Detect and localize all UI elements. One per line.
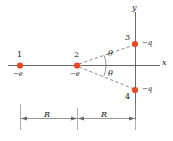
dimension-label-R-1: R [44, 111, 50, 119]
figure-canvas [0, 0, 173, 141]
angle-label-upper: θ [108, 50, 113, 58]
charge-dot-3 [132, 41, 138, 47]
charge-4-number: 4 [125, 93, 130, 101]
charge-configuration-figure: 1 −e 2 −e 3 −q 4 −q θ θ y x R R [0, 0, 173, 141]
dimension-label-R-2: R [101, 111, 107, 119]
charge-1-value: −e [13, 71, 23, 78]
angle-arc-upper [104, 56, 106, 66]
angle-arc-lower [104, 66, 106, 77]
charge-4-value: −q [142, 86, 152, 93]
dim-arrow-right-2 [129, 116, 135, 120]
charge-2-value: −e [70, 71, 80, 78]
charge-2-number: 2 [74, 51, 79, 59]
dashed-line-2-to-3 [79, 45, 134, 64]
angle-label-lower: θ [108, 70, 113, 78]
dashed-line-2-to-4 [79, 67, 134, 89]
dim-arrow-left-2 [78, 116, 84, 120]
charge-dot-4 [132, 87, 138, 93]
dim-arrow-left-1 [21, 116, 27, 120]
y-axis-label: y [132, 4, 137, 12]
charge-dot-1 [17, 62, 23, 68]
charge-3-number: 3 [125, 34, 130, 42]
charge-dot-2 [74, 62, 80, 68]
x-axis-label: x [162, 59, 167, 67]
charge-1-number: 1 [17, 51, 22, 59]
dim-arrow-right-1 [71, 116, 77, 120]
charge-3-value: −q [142, 40, 152, 47]
